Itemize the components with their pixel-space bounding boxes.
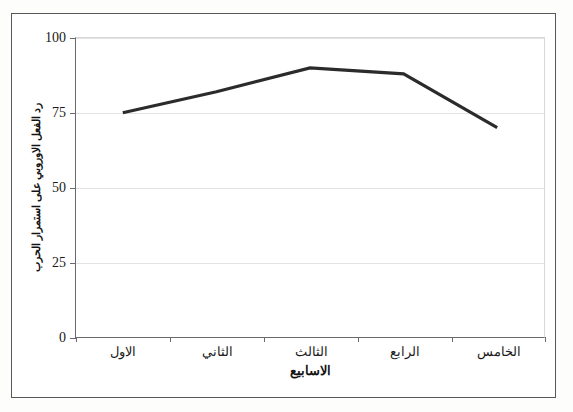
x-tick-mark-1 (170, 337, 171, 342)
x-tick-mark-5 (545, 337, 546, 342)
x-tick-mark-0 (76, 337, 77, 342)
x-tick-label-week-3: الثالث (295, 346, 328, 359)
x-axis-title: الاسابيع (75, 363, 545, 379)
x-tick-label-week-2: الثاني (202, 346, 233, 359)
x-tick-mark-3 (358, 337, 359, 342)
series-line-chart (76, 38, 544, 337)
y-tick-label-50: 50 (52, 181, 66, 195)
series-polyline (123, 68, 497, 128)
x-tick-mark-2 (264, 337, 265, 342)
y-tick-label-0: 0 (59, 331, 66, 345)
x-tick-label-week-1: الاول (110, 346, 136, 359)
y-tick-label-25: 25 (52, 256, 66, 270)
y-tick-label-75: 75 (52, 106, 66, 120)
x-tick-label-week-5: الخامس (477, 346, 521, 359)
y-tick-label-100: 100 (45, 31, 66, 45)
x-tick-label-week-4: الرابع (390, 346, 420, 359)
y-axis-title: رد الفعل الاوروبي على استمرار الحرب (28, 37, 46, 338)
plot-area: 100 75 50 25 0 الاول الثاني الثالث الراب… (75, 37, 545, 338)
x-tick-mark-4 (452, 337, 453, 342)
page-background: رد الفعل الاوروبي على استمرار الحرب 100 … (0, 0, 573, 412)
chart-figure-frame: رد الفعل الاوروبي على استمرار الحرب 100 … (11, 13, 556, 398)
